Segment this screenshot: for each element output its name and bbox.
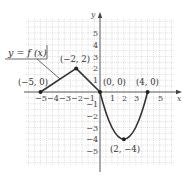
x-tick: 2 <box>122 94 127 103</box>
point-label: (−2, 2) <box>60 54 90 64</box>
y-tick: −5 <box>86 147 98 156</box>
y-tick: 1 <box>93 76 98 85</box>
x-tick: 1 <box>110 94 115 103</box>
y-axis-arrow-icon <box>98 12 102 18</box>
x-tick: 3 <box>134 94 139 103</box>
y-tick: −3 <box>86 124 98 133</box>
y-tick: 3 <box>93 53 98 62</box>
point-marker <box>98 90 102 94</box>
y-tick: 5 <box>93 29 98 38</box>
y-tick: 2 <box>93 64 98 73</box>
function-label: y = f (x) <box>7 47 47 58</box>
point-label: (0, 0) <box>103 77 126 87</box>
axes <box>24 12 182 172</box>
y-tick: 4 <box>93 41 98 50</box>
x-tick: −5 <box>35 94 47 103</box>
label-leader-line <box>37 59 60 79</box>
function-label-callout: y = f (x) <box>5 45 60 79</box>
point-marker <box>122 137 126 141</box>
x-tick: −4 <box>47 94 59 103</box>
y-tick: −1 <box>86 100 98 109</box>
y-axis-label: y <box>90 10 96 19</box>
point-marker <box>146 90 150 94</box>
y-tick: −2 <box>86 112 98 121</box>
point-label: (4, 0) <box>136 77 159 87</box>
x-tick-labels: −5 −4 −3 −2 −1 1 2 3 5 <box>35 94 163 103</box>
x-tick: −2 <box>71 94 83 103</box>
point-label: (−5, 0) <box>18 77 48 87</box>
function-graph: x y −5 −4 −3 −2 −1 1 2 3 5 5 4 3 2 1 −1 … <box>0 0 187 176</box>
x-axis-label: x <box>177 94 182 103</box>
point-label: (2, −4) <box>110 144 140 154</box>
x-tick: −3 <box>59 94 71 103</box>
point-marker <box>74 66 78 70</box>
x-tick: 5 <box>158 94 163 103</box>
point-marker <box>39 90 43 94</box>
y-tick: −4 <box>86 135 98 144</box>
